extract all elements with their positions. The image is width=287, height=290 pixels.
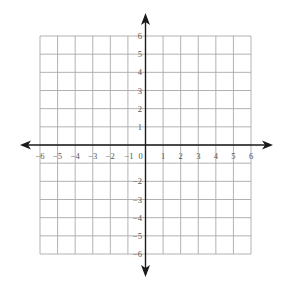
y-tick-label: −6 <box>133 249 142 259</box>
y-tick-label: 1 <box>138 122 142 132</box>
y-tick-label: 3 <box>138 86 142 96</box>
y-tick-label: 6 <box>138 31 142 41</box>
x-tick-label: 1 <box>161 151 165 161</box>
y-tick-label: −4 <box>133 213 143 223</box>
x-tick-label: −3 <box>88 151 97 161</box>
y-tick-label: 2 <box>138 104 142 114</box>
x-tick-label: −5 <box>53 151 62 161</box>
x-tick-label: −4 <box>71 151 81 161</box>
y-tick-label: −5 <box>133 231 142 241</box>
x-tick-label: 2 <box>179 151 183 161</box>
y-tick-label: 5 <box>138 49 142 59</box>
x-tick-label: −2 <box>106 151 115 161</box>
y-tick-label: −2 <box>133 176 142 186</box>
x-tick-label: 3 <box>196 151 200 161</box>
x-tick-label: 6 <box>249 151 253 161</box>
x-axis-labels: −6−5−4−3−2−10123456 <box>35 151 253 161</box>
x-tick-label: 4 <box>214 151 219 161</box>
x-tick-label: 5 <box>231 151 235 161</box>
x-tick-label: 0 <box>138 151 142 161</box>
x-tick-label: −6 <box>35 151 44 161</box>
x-tick-label: −1 <box>124 151 133 161</box>
coordinate-plane: −6−5−4−3−2−10123456 123456−2−3−4−5−6 <box>0 0 287 290</box>
y-tick-label: −3 <box>133 195 142 205</box>
